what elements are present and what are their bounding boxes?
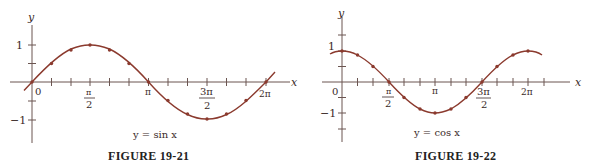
x-tick-3pi-half-den: 2 <box>204 100 210 111</box>
equation-label: y = cos x <box>413 127 460 138</box>
x-axis-label: x <box>291 76 298 89</box>
x-tick-0: 0 <box>35 86 41 97</box>
cos-graph: y x 1 −1 0 π 2 π 3π 2 2π y = cos x <box>320 7 582 142</box>
x-tick-2pi: 2π <box>259 89 271 99</box>
x-tick-3pi-half-den: 2 <box>481 99 487 110</box>
y-axis-label: y <box>27 11 35 24</box>
y-tick-neg1: −1 <box>10 114 26 127</box>
x-tick-pi-half-num: π <box>386 87 391 96</box>
figure-caption-19-21: FIGURE 19-21 <box>108 149 189 164</box>
x-axis-label: x <box>575 76 582 89</box>
x-tick-2pi: 2π <box>521 87 533 97</box>
x-tick-pi: π <box>432 86 438 96</box>
x-tick-pi-half-num: π <box>86 88 91 97</box>
x-tick-3pi-half-num: 3π <box>200 86 213 97</box>
y-tick-neg1: −1 <box>320 107 336 120</box>
x-tick-pi: π <box>145 87 151 97</box>
y-axis-label: y <box>337 7 345 20</box>
figure-caption-19-22: FIGURE 19-22 <box>415 149 496 164</box>
x-tick-0: 0 <box>332 86 338 97</box>
y-tick-1: 1 <box>16 39 23 52</box>
y-tick-1: 1 <box>328 40 335 53</box>
figures-canvas: y x 1 −1 0 π 2 π 3π 2 2π y = sin x <box>0 0 598 167</box>
x-tick-3pi-half-num: 3π <box>477 86 490 97</box>
x-tick-pi-half-den: 2 <box>86 99 92 110</box>
equation-label: y = sin x <box>132 129 177 140</box>
sin-graph: y x 1 −1 0 π 2 π 3π 2 2π y = sin x <box>10 11 298 143</box>
x-tick-pi-half-den: 2 <box>385 98 391 109</box>
